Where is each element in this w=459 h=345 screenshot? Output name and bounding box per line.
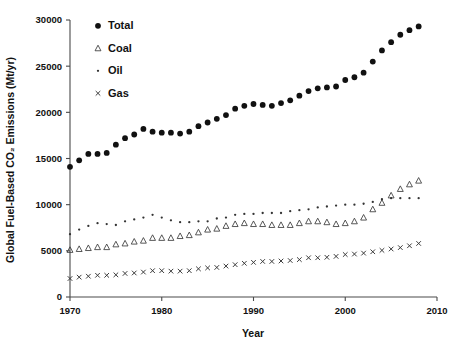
data-point-oil: [115, 224, 117, 226]
data-point-oil: [69, 233, 71, 235]
data-point-total: [113, 142, 119, 148]
data-point-total: [296, 93, 302, 99]
data-point-coal: [223, 223, 229, 229]
data-point-oil: [243, 213, 245, 215]
data-point-total: [177, 131, 183, 137]
y-axis-title: Global Fuel-Based CO₂ Emissions (Mt/yr): [4, 57, 16, 263]
data-point-coal: [379, 200, 385, 206]
data-point-coal: [186, 232, 192, 238]
data-point-total: [241, 103, 247, 109]
data-point-gas: [215, 265, 220, 270]
data-point-oil: [188, 221, 190, 223]
data-point-oil: [197, 220, 199, 222]
data-point-total: [122, 135, 128, 141]
data-point-gas: [270, 259, 275, 264]
data-point-gas: [150, 268, 155, 273]
data-point-gas: [297, 257, 302, 262]
x-tick-label: 2010: [426, 305, 447, 316]
data-point-coal: [150, 235, 156, 241]
chart-legend: TotalCoalOilGas: [95, 19, 133, 99]
data-point-total: [186, 129, 192, 135]
x-axis-title: Year: [242, 327, 264, 339]
data-point-total: [159, 130, 165, 136]
data-point-total: [205, 120, 211, 126]
data-point-oil: [280, 212, 282, 214]
y-tick-label: 15000: [36, 153, 62, 164]
data-point-oil: [87, 225, 89, 227]
data-point-total: [342, 77, 348, 83]
data-point-oil: [307, 208, 309, 210]
data-point-oil: [390, 197, 392, 199]
data-point-oil: [289, 210, 291, 212]
data-point-total: [85, 151, 91, 157]
data-point-gas: [334, 254, 339, 259]
data-point-gas: [77, 275, 82, 280]
data-point-oil: [170, 219, 172, 221]
data-point-gas: [389, 247, 394, 252]
data-point-coal: [333, 221, 339, 227]
y-axis: 050001000015000200002500030000: [36, 14, 70, 302]
data-point-total: [131, 132, 137, 138]
data-point-oil: [133, 218, 135, 220]
data-point-oil: [344, 204, 346, 206]
data-point-gas: [306, 255, 311, 260]
data-point-gas: [343, 252, 348, 257]
data-point-gas: [132, 271, 137, 276]
data-point-total: [379, 48, 385, 54]
data-point-coal: [177, 233, 183, 239]
data-point-coal: [260, 221, 266, 227]
data-point-oil: [179, 221, 181, 223]
data-point-gas: [315, 255, 320, 260]
data-point-oil: [124, 220, 126, 222]
data-point-total: [287, 97, 293, 103]
y-tick-label: 0: [57, 291, 62, 302]
data-point-gas: [187, 268, 192, 273]
data-point-gas: [205, 266, 210, 271]
data-point-gas: [325, 255, 330, 260]
data-point-total: [352, 74, 358, 80]
y-axis-tick-labels: 050001000015000200002500030000: [36, 14, 62, 302]
data-point-total: [278, 100, 284, 106]
data-point-gas: [224, 264, 229, 269]
data-point-total: [104, 150, 110, 156]
data-point-total: [397, 32, 403, 38]
data-point-gas: [370, 249, 375, 254]
data-point-total: [370, 59, 376, 65]
data-point-coal: [324, 219, 330, 225]
data-point-total: [251, 101, 257, 107]
data-point-gas: [196, 267, 201, 272]
x-axis-tick-labels: 19701980199020002010: [59, 305, 447, 316]
data-point-total: [232, 106, 238, 112]
data-point-coal: [251, 221, 257, 227]
x-tick-label: 2000: [335, 305, 356, 316]
data-point-coal: [205, 227, 211, 233]
data-point-oil: [298, 209, 300, 211]
data-point-total: [76, 157, 82, 163]
y-tick-label: 5000: [41, 245, 62, 256]
data-point-total: [333, 84, 339, 90]
x-axis: 19701980199020002010: [59, 297, 447, 316]
data-point-oil: [161, 216, 163, 218]
data-point-coal: [113, 241, 119, 247]
data-point-gas: [242, 261, 247, 266]
data-point-gas: [104, 273, 109, 278]
chart-figure: 050001000015000200002500030000 197019801…: [0, 0, 459, 345]
data-point-gas: [178, 269, 183, 274]
data-point-gas: [380, 248, 385, 253]
data-point-coal: [351, 218, 357, 224]
data-point-total: [196, 123, 202, 129]
data-point-coal: [287, 222, 293, 228]
data-point-total: [324, 85, 330, 91]
data-series-layer: [67, 24, 422, 281]
data-point-gas: [233, 262, 238, 267]
data-point-total: [306, 88, 312, 94]
data-point-coal: [370, 206, 376, 212]
data-point-gas: [123, 271, 128, 276]
data-point-coal: [397, 186, 403, 192]
legend-marker-total: [95, 23, 101, 29]
data-point-coal: [241, 220, 247, 226]
data-point-total: [150, 129, 156, 135]
data-point-coal: [85, 245, 91, 251]
data-point-coal: [131, 239, 137, 245]
x-tick-label: 1980: [151, 305, 172, 316]
